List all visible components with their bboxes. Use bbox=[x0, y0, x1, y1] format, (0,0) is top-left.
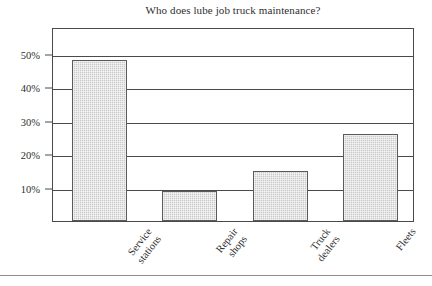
y-tick-label: 10% bbox=[21, 183, 40, 194]
bar bbox=[343, 134, 398, 221]
y-tick-label: 40% bbox=[21, 83, 40, 94]
y-tick-mark bbox=[45, 188, 52, 189]
chart-title: Who does lube job truck maintenance? bbox=[52, 4, 414, 16]
x-axis: ServicestationsRepairshopsTruckdealersFl… bbox=[0, 222, 432, 282]
y-tick-mark bbox=[45, 121, 52, 122]
x-category-label: Truckdealers bbox=[305, 226, 341, 264]
y-tick-label: 20% bbox=[21, 150, 40, 161]
bar-chart-figure: Who does lube job truck maintenance? 10%… bbox=[0, 0, 432, 286]
y-tick-mark bbox=[45, 54, 52, 55]
x-category-label: Fleets bbox=[393, 226, 418, 253]
plot-area bbox=[52, 28, 414, 222]
bar bbox=[72, 60, 127, 221]
x-category-label-line: Fleets bbox=[393, 226, 417, 253]
gridline-50 bbox=[53, 56, 413, 57]
bar bbox=[162, 191, 217, 221]
y-tick-label: 50% bbox=[21, 49, 40, 60]
bar bbox=[253, 171, 308, 221]
footer-divider bbox=[0, 275, 432, 276]
x-category-label: Servicestations bbox=[125, 226, 163, 265]
x-category-label: Repairshops bbox=[213, 226, 248, 262]
y-tick-label: 30% bbox=[21, 116, 40, 127]
y-tick-mark bbox=[45, 88, 52, 89]
y-tick-mark bbox=[45, 155, 52, 156]
